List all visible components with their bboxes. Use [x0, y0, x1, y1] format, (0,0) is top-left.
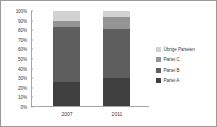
y-axis-tick-label: 50%	[18, 57, 27, 62]
legend-item-partei-b[interactable]: Partei B	[156, 65, 214, 76]
y-axis-tick-label: 70%	[18, 37, 27, 42]
bar-segment-partei-c[interactable]	[53, 21, 80, 28]
bar-2011[interactable]	[103, 11, 130, 106]
bar-segment-uebrige-parteien[interactable]	[53, 11, 80, 21]
legend-item-partei-a[interactable]: Partei A	[156, 76, 214, 87]
legend-swatch-icon	[156, 78, 161, 83]
y-axis-tick-label: 40%	[18, 66, 27, 71]
y-axis-tick-label: 80%	[18, 28, 27, 33]
y-axis-tick-label: 30%	[18, 76, 27, 81]
y-axis: 0% 10% 20% 30% 40% 50% 60% 70% 80% 90% 1…	[3, 11, 29, 107]
legend-item-label: Partei C	[164, 57, 180, 62]
y-axis-tick-label: 60%	[18, 47, 27, 52]
bar-segment-partei-a[interactable]	[103, 78, 130, 107]
x-axis: 2007 2011	[31, 111, 149, 123]
bar-segment-partei-b[interactable]	[53, 27, 80, 82]
y-axis-tick-label: 20%	[18, 85, 27, 90]
legend-item-uebrige-parteien[interactable]: Übrige Parteien	[156, 44, 214, 55]
bar-segment-partei-c[interactable]	[103, 17, 130, 29]
x-axis-tick-label-2011: 2011	[112, 111, 123, 117]
y-axis-line	[31, 11, 32, 107]
bar-2007[interactable]	[53, 11, 80, 106]
legend-item-label: Partei B	[164, 68, 180, 73]
y-axis-tick-label: 10%	[18, 95, 27, 100]
legend-item-label: Partei A	[164, 78, 180, 83]
y-axis-tick-label: 90%	[18, 18, 27, 23]
plot-area	[31, 11, 149, 107]
x-axis-tick-label-2007: 2007	[61, 111, 72, 117]
x-axis-line	[31, 106, 149, 107]
y-axis-tick-label: 100%	[16, 9, 27, 14]
chart-screenshot: 0% 10% 20% 30% 40% 50% 60% 70% 80% 90% 1…	[0, 0, 217, 127]
bar-segment-partei-a[interactable]	[53, 82, 80, 106]
legend-swatch-icon	[156, 68, 161, 73]
bar-segment-partei-b[interactable]	[103, 29, 130, 77]
y-axis-tick-label: 0%	[21, 105, 27, 110]
chart-legend: Übrige Parteien Partei C Partei B Partei…	[156, 44, 214, 86]
legend-swatch-icon	[156, 57, 161, 62]
legend-item-partei-c[interactable]: Partei C	[156, 55, 214, 66]
legend-swatch-icon	[156, 47, 161, 52]
legend-item-label: Übrige Parteien	[164, 47, 195, 52]
